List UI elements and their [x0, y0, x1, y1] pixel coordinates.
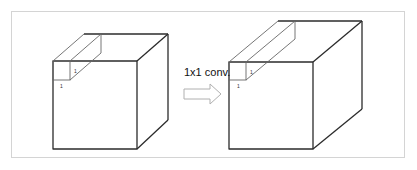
diagram-canvas: 1 1 1 1 — [0, 0, 417, 170]
hollow-right-arrow-icon — [184, 84, 221, 104]
output-kernel-width-label: 1 — [237, 83, 240, 89]
input-kernel-column — [53, 34, 101, 80]
input-kernel-depth-label: 1 — [74, 68, 77, 74]
output-volume-cube — [229, 21, 362, 149]
output-kernel-depth-label: 1 — [250, 69, 253, 75]
input-kernel-width-label: 1 — [60, 83, 63, 89]
output-kernel-column — [229, 21, 295, 80]
input-volume-cube — [53, 34, 168, 149]
operation-label: 1x1 conv. — [184, 66, 230, 78]
